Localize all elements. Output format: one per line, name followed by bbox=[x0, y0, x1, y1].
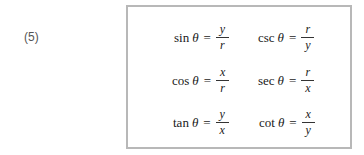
formula-sec: sec θ = r x bbox=[258, 66, 314, 95]
function-name: sin bbox=[174, 30, 189, 46]
numerator: y bbox=[216, 23, 229, 38]
numerator: r bbox=[301, 66, 314, 81]
fraction: y x bbox=[216, 108, 229, 137]
denominator: x bbox=[219, 123, 224, 137]
fraction: x r bbox=[216, 66, 229, 95]
denominator: r bbox=[220, 38, 225, 52]
trig-identities-box: sin θ = y r csc θ = r y cos θ = x r sec … bbox=[126, 5, 352, 149]
theta-symbol: θ bbox=[278, 30, 284, 46]
theta-symbol: θ bbox=[278, 115, 284, 131]
equals-sign: = bbox=[203, 115, 210, 131]
numerator: y bbox=[216, 108, 229, 123]
denominator: r bbox=[220, 81, 225, 95]
denominator: y bbox=[305, 123, 310, 137]
theta-symbol: θ bbox=[278, 73, 284, 89]
equals-sign: = bbox=[289, 73, 296, 89]
formula-cot: cot θ = x y bbox=[259, 108, 315, 137]
denominator: y bbox=[305, 38, 310, 52]
equation-number: (5) bbox=[24, 30, 39, 44]
fraction: r x bbox=[301, 66, 314, 95]
equals-sign: = bbox=[204, 30, 211, 46]
fraction: r y bbox=[301, 23, 314, 52]
equals-sign: = bbox=[204, 73, 211, 89]
formula-csc: csc θ = r y bbox=[258, 23, 314, 52]
function-name: sec bbox=[258, 73, 275, 89]
equals-sign: = bbox=[289, 30, 296, 46]
formula-tan: tan θ = y x bbox=[173, 108, 229, 137]
fraction: x y bbox=[302, 108, 315, 137]
function-name: csc bbox=[258, 30, 275, 46]
theta-symbol: θ bbox=[192, 73, 198, 89]
numerator: x bbox=[216, 66, 229, 81]
function-name: cot bbox=[259, 115, 275, 131]
denominator: x bbox=[305, 81, 310, 95]
formula-cos: cos θ = x r bbox=[172, 66, 229, 95]
theta-symbol: θ bbox=[192, 115, 198, 131]
formula-sin: sin θ = y r bbox=[174, 23, 229, 52]
function-name: tan bbox=[173, 115, 189, 131]
numerator: x bbox=[302, 108, 315, 123]
equals-sign: = bbox=[289, 115, 296, 131]
function-name: cos bbox=[172, 73, 189, 89]
theta-symbol: θ bbox=[192, 30, 198, 46]
numerator: r bbox=[301, 23, 314, 38]
fraction: y r bbox=[216, 23, 229, 52]
